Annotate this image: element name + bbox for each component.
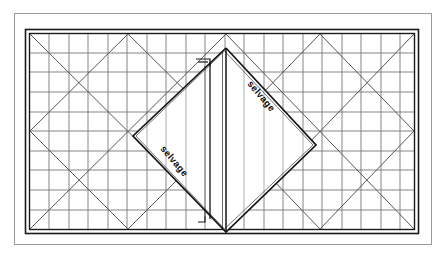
pattern-diagram-svg: selvage selvage [0,0,445,257]
diagram-canvas: selvage selvage [0,0,445,257]
